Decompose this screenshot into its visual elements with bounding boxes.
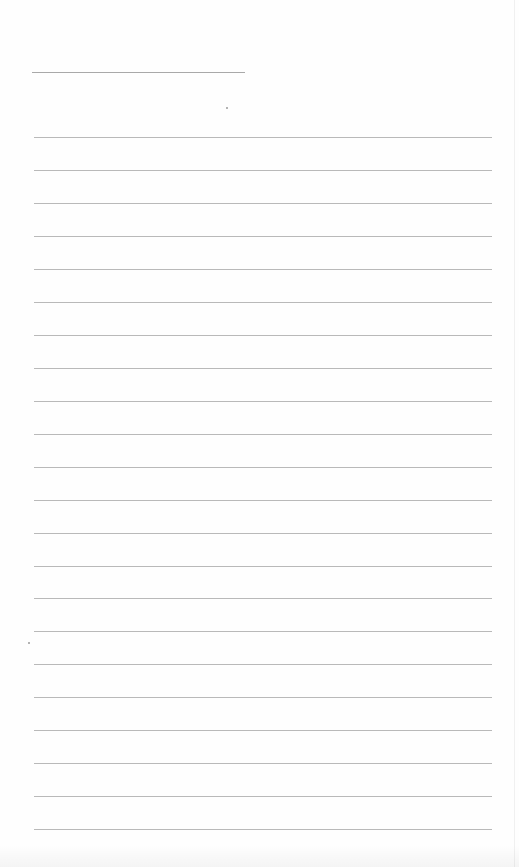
ruled-line (34, 269, 492, 270)
ruled-line (34, 566, 492, 567)
page-edge (514, 0, 515, 867)
ruled-line (34, 170, 492, 171)
ruled-line (34, 434, 492, 435)
ruled-line (34, 236, 492, 237)
ruled-line (34, 335, 492, 336)
ruled-line (34, 500, 492, 501)
ruled-line (34, 829, 492, 830)
ruled-line (34, 302, 492, 303)
ruled-line (34, 763, 492, 764)
ruled-line (34, 368, 492, 369)
ruled-line (34, 697, 492, 698)
ruled-line (34, 203, 492, 204)
ruled-line (34, 598, 492, 599)
ruled-line (34, 401, 492, 402)
ruled-line (34, 137, 492, 138)
lined-page (0, 0, 519, 867)
ruled-line (34, 664, 492, 665)
ruled-line (34, 467, 492, 468)
ruled-line (34, 533, 492, 534)
speck-mark (28, 642, 30, 644)
page-bottom-shadow (0, 845, 519, 867)
title-line (32, 72, 245, 73)
ruled-line (34, 631, 492, 632)
ruled-line (34, 796, 492, 797)
ruled-line (34, 730, 492, 731)
speck-mark (226, 107, 228, 109)
